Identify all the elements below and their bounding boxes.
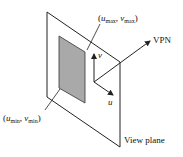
u-axis-label: u xyxy=(108,98,113,107)
v-axis-label: v xyxy=(98,51,102,60)
paren: ) xyxy=(135,13,138,23)
view-plane-label: View plane xyxy=(124,136,165,145)
u-axis-arrow xyxy=(94,82,113,95)
v-subscript: min xyxy=(28,118,37,124)
diagram-graphics xyxy=(0,0,183,157)
u-subscript: min xyxy=(11,118,20,124)
window-rectangle xyxy=(59,36,85,103)
bottom-corner-label: (umin, vmin) xyxy=(3,114,41,124)
paren: ) xyxy=(38,113,41,123)
vpn-arrow xyxy=(94,41,150,82)
u-subscript: max xyxy=(106,18,116,24)
top-corner-leader xyxy=(87,24,100,50)
vpn-label: VPN xyxy=(153,36,171,45)
diagram-canvas: (umax, vmax) (umin, vmin) VPN v u View p… xyxy=(0,0,183,157)
top-corner-label: (umax, vmax) xyxy=(98,14,138,24)
v-subscript: max xyxy=(124,18,134,24)
